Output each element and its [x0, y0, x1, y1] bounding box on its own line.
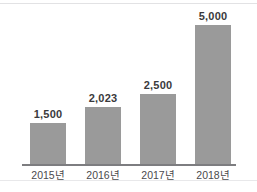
bar-value-2018: 5,000	[183, 10, 243, 22]
bar-group-2015: 1,500	[30, 0, 66, 164]
bar-value-2017: 2,500	[128, 79, 188, 91]
bar-group-2018: 5,000	[195, 0, 231, 164]
bar-group-2017: 2,500	[140, 0, 176, 164]
bar-group-2016: 2,023	[85, 0, 121, 164]
bar-chart-figure: 1,500 2015년 2,023 2016년 2,500 2017년 5,00…	[0, 0, 257, 192]
category-axis-line	[22, 164, 236, 166]
bar-value-2015: 1,500	[18, 108, 78, 120]
bar-2017[interactable]	[140, 94, 176, 164]
category-label-2018: 2018년	[185, 167, 241, 182]
plot-area: 1,500 2015년 2,023 2016년 2,500 2017년 5,00…	[0, 0, 257, 192]
category-label-2015: 2015년	[20, 167, 76, 182]
category-label-2016: 2016년	[75, 167, 131, 182]
bar-2015[interactable]	[30, 123, 66, 164]
bar-value-2016: 2,023	[73, 92, 133, 104]
category-label-2017: 2017년	[130, 167, 186, 182]
bar-2016[interactable]	[85, 107, 121, 164]
bar-2018[interactable]	[195, 25, 231, 164]
